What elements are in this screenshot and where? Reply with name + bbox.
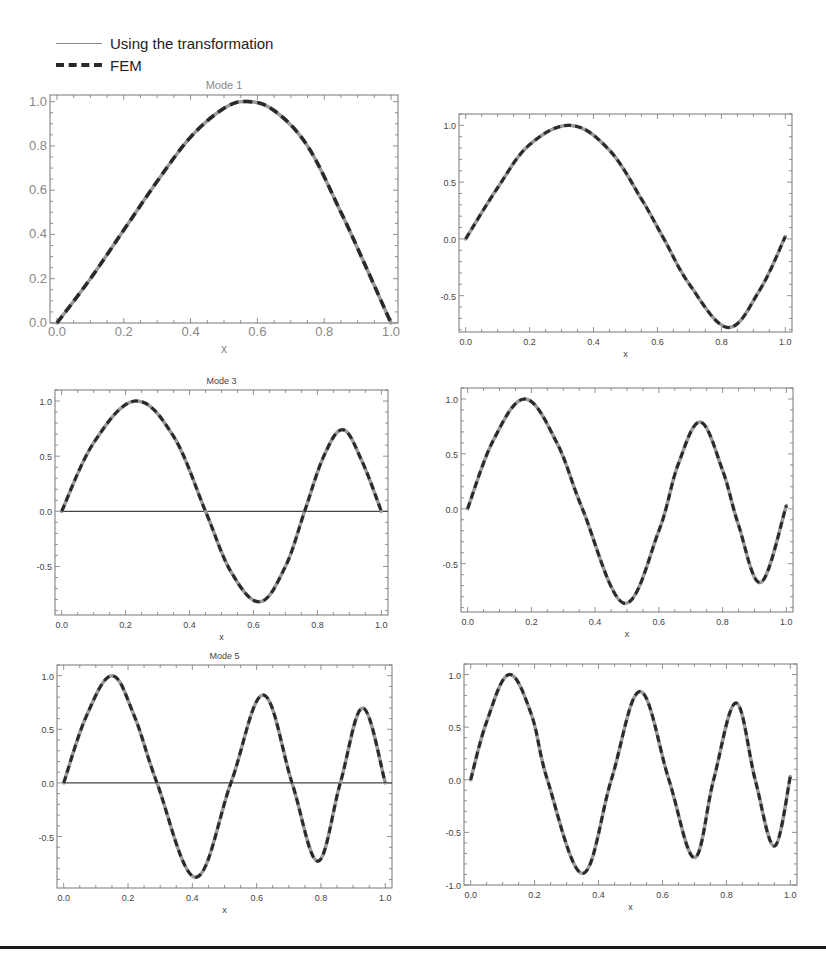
- plot-title: Mode 5: [209, 651, 239, 661]
- y-tick-label: -0.5: [440, 292, 456, 302]
- x-tick-label: 0.4: [592, 890, 605, 900]
- y-tick-label: 0.8: [29, 138, 47, 153]
- x-tick-label: 0.8: [311, 620, 324, 630]
- x-tick-label: 0.8: [720, 890, 733, 900]
- transformation-curve: [466, 125, 786, 327]
- y-tick-label: 0.4: [29, 226, 47, 241]
- plot-title: Mode 1: [206, 79, 243, 91]
- y-tick-label: -0.5: [38, 833, 54, 843]
- fem-curve: [62, 401, 382, 602]
- plot-title: Mode 3: [206, 376, 236, 386]
- y-tick-label: 0.5: [41, 725, 54, 735]
- x-axis-label: x: [219, 632, 224, 642]
- x-tick-label: 1.0: [379, 893, 392, 903]
- fem-curve: [468, 399, 787, 603]
- y-tick-label: 1.0: [443, 121, 456, 131]
- x-axis-label: x: [625, 629, 630, 639]
- x-tick-label: 0.0: [48, 324, 66, 339]
- x-tick-label: 1.0: [779, 337, 792, 347]
- x-tick-label: 0.2: [523, 337, 536, 347]
- y-tick-label: 1.0: [448, 671, 461, 681]
- x-tick-label: 0.4: [183, 620, 196, 630]
- plot-panel-3: 0.00.20.40.60.81.0-0.50.00.51.0xMode 3: [36, 376, 388, 642]
- y-tick-label: 0.0: [39, 507, 52, 517]
- plot-panel-6: 0.00.20.40.60.81.0-1.0-0.50.00.51.0x: [445, 664, 797, 912]
- fem-curve: [466, 125, 786, 327]
- x-tick-label: 0.8: [315, 893, 328, 903]
- y-tick-label: 0.0: [41, 779, 54, 789]
- transformation-curve: [468, 399, 787, 603]
- plot-frame: [459, 114, 792, 332]
- x-tick-label: 0.4: [182, 324, 200, 339]
- plot-panel-1: 0.00.20.40.60.81.00.00.20.40.60.81.0xMod…: [29, 79, 400, 356]
- y-tick-label: 0.0: [448, 776, 461, 786]
- plot-panel-5: 0.00.20.40.60.81.0-0.50.00.51.0xMode 5: [38, 651, 392, 915]
- x-tick-label: 0.2: [119, 620, 132, 630]
- y-tick-label: 0.0: [445, 505, 458, 515]
- y-tick-label: 0.0: [443, 235, 456, 245]
- y-tick-label: 1.0: [445, 395, 458, 405]
- plot-panel-2: 0.00.20.40.60.81.0-0.50.00.51.0x: [440, 114, 792, 359]
- transformation-curve: [64, 676, 386, 878]
- plot-frame: [464, 664, 797, 885]
- x-tick-label: 0.2: [122, 893, 135, 903]
- x-tick-label: 0.8: [315, 324, 333, 339]
- x-tick-label: 0.8: [715, 337, 728, 347]
- x-tick-label: 0.2: [115, 324, 133, 339]
- y-tick-label: 0.5: [448, 723, 461, 733]
- y-tick-label: 0.0: [29, 315, 47, 330]
- x-tick-label: 0.6: [248, 324, 266, 339]
- x-axis-label: x: [221, 342, 227, 356]
- x-tick-label: 0.6: [247, 620, 260, 630]
- y-tick-label: 0.5: [443, 178, 456, 188]
- x-tick-label: 0.0: [459, 337, 472, 347]
- y-tick-label: -0.5: [442, 560, 458, 570]
- plot-frame: [50, 95, 398, 323]
- plot-panel-4: 0.00.20.40.60.81.0-0.50.00.51.0x: [442, 388, 793, 639]
- y-tick-label: 0.6: [29, 182, 47, 197]
- fem-curve: [57, 102, 391, 323]
- x-tick-label: 0.0: [464, 890, 477, 900]
- y-tick-label: 0.5: [39, 452, 52, 462]
- x-tick-label: 0.0: [461, 617, 474, 627]
- plots-canvas: 0.00.20.40.60.81.00.00.20.40.60.81.0xMod…: [0, 0, 826, 959]
- y-tick-label: 1.0: [29, 94, 47, 109]
- x-axis-label: x: [628, 902, 633, 912]
- bottom-rule: [0, 946, 826, 949]
- y-tick-label: -0.5: [36, 562, 52, 572]
- x-tick-label: 0.6: [651, 337, 664, 347]
- y-tick-label: 0.5: [445, 450, 458, 460]
- x-axis-label: x: [623, 349, 628, 359]
- x-tick-label: 0.8: [716, 617, 729, 627]
- x-tick-label: 1.0: [784, 890, 797, 900]
- y-tick-label: -1.0: [445, 881, 461, 891]
- x-tick-label: 0.6: [250, 893, 263, 903]
- y-tick-label: 0.2: [29, 271, 47, 286]
- transformation-curve: [62, 401, 382, 602]
- x-tick-label: 0.6: [656, 890, 669, 900]
- plot-frame: [461, 388, 793, 612]
- fem-curve: [64, 676, 386, 878]
- x-tick-label: 1.0: [382, 324, 400, 339]
- x-tick-label: 1.0: [780, 617, 793, 627]
- x-tick-label: 0.6: [653, 617, 666, 627]
- x-tick-label: 0.2: [528, 890, 541, 900]
- x-tick-label: 0.0: [55, 620, 68, 630]
- y-tick-label: 1.0: [39, 397, 52, 407]
- x-tick-label: 0.2: [525, 617, 538, 627]
- x-tick-label: 0.4: [186, 893, 199, 903]
- y-tick-label: -0.5: [445, 828, 461, 838]
- fem-curve: [471, 674, 791, 873]
- x-tick-label: 1.0: [375, 620, 388, 630]
- x-axis-label: x: [222, 905, 227, 915]
- mode-shape-figure: Using the transformation FEM 0.00.20.40.…: [0, 0, 826, 959]
- y-tick-label: 1.0: [41, 672, 54, 682]
- x-tick-label: 0.4: [587, 337, 600, 347]
- x-tick-label: 0.0: [57, 893, 70, 903]
- x-tick-label: 0.4: [589, 617, 602, 627]
